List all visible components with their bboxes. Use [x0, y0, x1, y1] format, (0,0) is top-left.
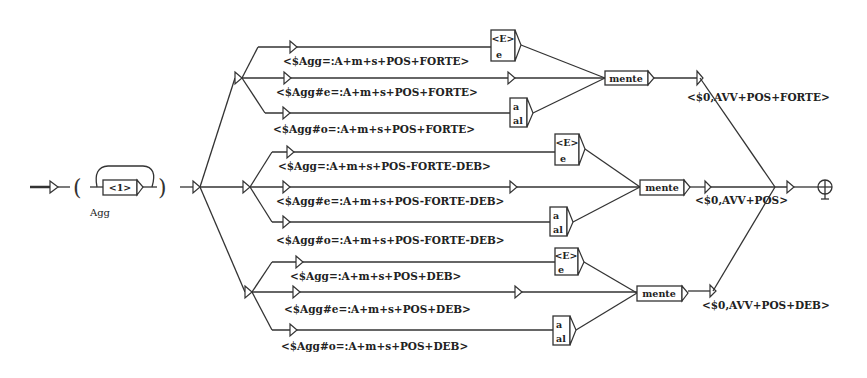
subgraph-call[interactable]: ( <1> ) Agg — [73, 166, 167, 218]
svg-text:e: e — [558, 264, 564, 275]
output-label: <$Agg#o=:A+m+s+POS+FORTE> — [273, 123, 475, 135]
final-output-label: <$0,AVV+POS+DEB> — [702, 299, 830, 311]
svg-text:<E>: <E> — [554, 250, 577, 261]
group-deb: <$Agg=:A+m+s+POS+DEB> <E> e <$Agg#e=:A+m… — [245, 187, 830, 352]
open-paren: ( — [73, 175, 82, 200]
svg-text:<E>: <E> — [555, 137, 578, 148]
output-label: <$Agg=:A+m+s+POS+DEB> — [290, 270, 461, 282]
svg-text:a: a — [513, 101, 519, 112]
close-paren: ) — [158, 175, 167, 200]
final-state-icon[interactable] — [818, 180, 832, 199]
output-label: <$Agg#o=:A+m+s+POS-FORTE-DEB> — [276, 234, 505, 246]
output-label: <$Agg=:A+m+s+POS+FORTE> — [283, 55, 469, 67]
svg-text:a: a — [553, 210, 559, 221]
svg-text:a: a — [556, 319, 562, 330]
output-label: <$Agg#e=:A+m+s+POS-FORTE-DEB> — [276, 195, 504, 207]
svg-text:al: al — [513, 115, 523, 126]
group-forte-deb: <$Agg=:A+m+s+POS-FORTE-DEB> <E> e <$Agg#… — [243, 134, 788, 246]
output-var-label: Agg — [89, 207, 111, 218]
automaton-graph: ( <1> ) Agg <$Agg=:A+m+s+POS+FORTE> <E> … — [0, 0, 867, 378]
svg-text:<E>: <E> — [491, 33, 514, 44]
svg-text:e: e — [496, 49, 502, 60]
output-label: <$Agg#o=:A+m+s+POS+DEB> — [281, 340, 468, 352]
svg-text:mente: mente — [609, 73, 642, 84]
svg-text:mente: mente — [645, 182, 678, 193]
node[interactable] — [787, 181, 794, 193]
svg-text:e: e — [560, 153, 566, 164]
output-label: <$Agg#e=:A+m+s+POS+DEB> — [284, 303, 471, 315]
output-label: <$Agg#e=:A+m+s+POS+FORTE> — [276, 86, 478, 98]
final-output-label: <$0,AVV+POS+FORTE> — [687, 91, 830, 103]
initial-state — [30, 181, 70, 193]
svg-text:al: al — [556, 333, 566, 344]
svg-text:al: al — [553, 224, 563, 235]
node[interactable] — [193, 181, 200, 193]
final-state — [787, 180, 832, 199]
svg-text:mente: mente — [642, 288, 675, 299]
subgraph-label: <1> — [109, 182, 132, 193]
output-label: <$Agg=:A+m+s+POS-FORTE-DEB> — [278, 160, 491, 172]
final-output-label: <$0,AVV+POS> — [695, 194, 788, 206]
